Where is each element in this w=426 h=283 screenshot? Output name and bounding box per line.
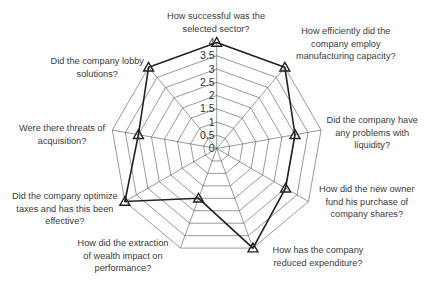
category-label: Were there threats ofacquisition?	[19, 122, 105, 147]
category-label: How successful was theselected sector?	[167, 10, 265, 35]
radial-tick-label: 2.5	[200, 76, 215, 88]
category-label: How efficiently did thecompany employman…	[296, 25, 396, 63]
category-label-line: Did the company optimize	[12, 190, 118, 203]
category-label-line: effective?	[12, 215, 118, 228]
axis-spoke	[217, 149, 309, 202]
radar-chart: 00.511.522.533.54 How successful was the…	[0, 0, 426, 283]
category-label-line: Did the company lobby	[51, 55, 144, 68]
category-label-line: Were there threats of	[19, 122, 105, 135]
category-label-line: solutions?	[51, 68, 144, 81]
axis-spoke	[217, 67, 285, 148]
radial-tick-label: 1	[209, 116, 215, 128]
category-label-line: fund his purchase of	[319, 196, 415, 209]
category-label-line: How successful was the	[167, 10, 265, 23]
category-label: How did the new ownerfund his purchase o…	[319, 183, 415, 221]
radial-tick-label: 2	[209, 89, 215, 101]
axis-spoke	[125, 149, 217, 202]
category-label-line: any problems with	[327, 127, 418, 140]
category-label-line: taxes and has this been	[12, 203, 118, 216]
category-label-line: performance?	[78, 262, 169, 275]
radial-tick-label: 0.5	[200, 129, 215, 141]
radial-tick-label: 3.5	[200, 49, 215, 61]
radial-tick-label: 0	[209, 142, 215, 154]
category-label: How has the companyreduced expenditure?	[273, 244, 364, 269]
category-label: Did the company lobbysolutions?	[51, 55, 144, 80]
category-label-line: How efficiently did the	[296, 25, 396, 38]
category-label-line: How has the company	[273, 244, 364, 257]
category-label-line: How did the extraction	[78, 237, 169, 250]
category-label-line: Did the company have	[327, 114, 418, 127]
radial-tick-labels: 00.511.522.533.54	[200, 36, 215, 154]
radial-tick-label: 1.5	[200, 102, 215, 114]
category-label-line: acquisition?	[19, 135, 105, 148]
category-label: How did the extractionof wealth impact o…	[78, 237, 169, 275]
category-label-line: of wealth impact on	[78, 250, 169, 263]
category-label-line: company shares?	[319, 208, 415, 221]
category-label: Did the company haveany problems withliq…	[327, 114, 418, 152]
category-label-line: manufacturing capacity?	[296, 50, 396, 63]
category-label: Did the company optimizetaxes and has th…	[12, 190, 118, 228]
category-label-line: selected sector?	[167, 23, 265, 36]
radial-tick-label: 3	[209, 63, 215, 75]
category-label-line: company employ	[296, 38, 396, 51]
category-label-line: reduced expenditure?	[273, 257, 364, 270]
category-label-line: How did the new owner	[319, 183, 415, 196]
category-label-line: liquidity?	[327, 139, 418, 152]
